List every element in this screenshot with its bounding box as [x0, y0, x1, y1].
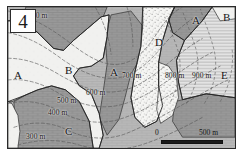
scalebar-zero-label: 0: [155, 128, 159, 137]
figure-panel: 4 A B A D A B E C 300 m 600 m 500 m 400 …: [0, 0, 244, 166]
panel-number-badge: 4: [10, 9, 36, 33]
scalebar-max-label: 500 m: [199, 128, 218, 137]
scalebar-bar: [161, 140, 223, 144]
geological-map: [8, 7, 235, 148]
panel-number-text: 4: [18, 12, 28, 31]
scalebar: [161, 139, 223, 145]
